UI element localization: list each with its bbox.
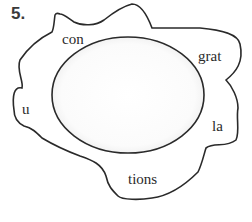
syllable-u: u: [22, 101, 30, 118]
syllable-con: con: [62, 31, 84, 48]
syllable-tions: tions: [128, 171, 157, 188]
syllable-grat: grat: [198, 48, 221, 65]
answer-ellipse[interactable]: [52, 37, 204, 153]
puzzle-outline: [0, 0, 252, 222]
syllable-la: la: [212, 118, 223, 135]
